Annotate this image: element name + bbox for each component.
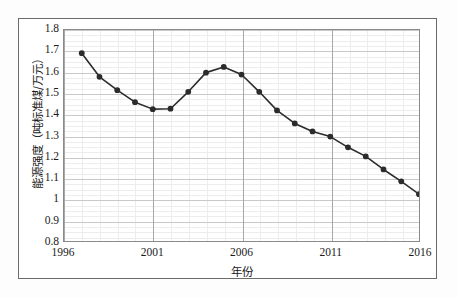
data-point-marker: 2007: 1.507: [256, 89, 262, 95]
figure: 0.80.911.11.21.31.41.51.61.71.8 1997: 1.…: [0, 0, 457, 298]
x-axis-tick-label: 2011: [301, 247, 361, 259]
x-axis-title: 年份: [63, 263, 420, 279]
x-axis-tick-label: 2016: [390, 247, 450, 259]
data-point-marker: 2009: 1.357: [292, 121, 298, 127]
data-point-marker: 1997: 1.69: [79, 50, 85, 56]
x-axis-tick-label: 2006: [212, 247, 272, 259]
x-axis-tick-label: 1996: [33, 247, 93, 259]
data-point-marker: 2000: 1.458: [132, 99, 138, 105]
data-point-marker: 2005: 1.625: [221, 64, 227, 70]
data-point-marker: 2001: 1.425: [150, 106, 156, 112]
data-series-energy-intensity: 1997: 1.691998: 1.5781999: 1.5152000: 1.…: [64, 30, 419, 241]
data-point-marker: 2006: 1.589: [239, 72, 245, 78]
data-point-marker: 2003: 1.507: [185, 89, 191, 95]
data-point-marker: 2011: 1.295: [327, 134, 333, 140]
data-point-marker: 2010: 1.319: [310, 129, 316, 135]
chart-area: 0.80.911.11.21.31.41.51.61.71.8 1997: 1.…: [0, 0, 457, 298]
data-point-marker: 2012: 1.244: [345, 144, 351, 150]
data-point-marker: 2013: 1.201: [363, 154, 369, 160]
data-point-marker: 2008: 1.419: [274, 108, 280, 114]
data-point-marker: 2014: 1.139: [381, 167, 387, 173]
data-point-marker: 2015: 1.083: [398, 178, 404, 184]
series-line: [82, 53, 419, 194]
plot-area: 1997: 1.691998: 1.5781999: 1.5152000: 1.…: [63, 29, 420, 242]
x-axis-tick-label: 2001: [122, 247, 182, 259]
data-point-marker: 2002: 1.427: [168, 106, 174, 112]
data-point-marker: 1999: 1.515: [114, 87, 120, 93]
x-axis-tick-labels: 19962001200620112016: [63, 247, 420, 263]
data-point-marker: 2004: 1.598: [203, 70, 209, 76]
data-point-marker: 1998: 1.578: [97, 74, 103, 80]
y-axis-title: 能源强度（吨标准煤/万元）: [29, 21, 45, 221]
